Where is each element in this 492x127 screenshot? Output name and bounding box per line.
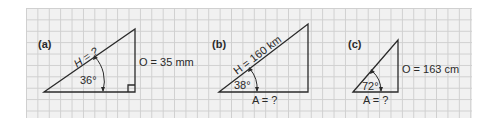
hypotenuse-label-a: H = ? bbox=[71, 44, 100, 69]
panel-c-label: (c) bbox=[348, 38, 362, 50]
panel-b-label: (b) bbox=[212, 38, 226, 50]
angle-label-c: 72° bbox=[362, 80, 379, 92]
trig-triangles-figure: (a) 36° H = ? O = 35 mm (b) 38° H = 160 … bbox=[0, 0, 492, 127]
right-angle-marker-a bbox=[128, 85, 135, 92]
opposite-label-a: O = 35 mm bbox=[139, 56, 194, 68]
panel-a: (a) 36° H = ? O = 35 mm bbox=[38, 29, 194, 92]
hypotenuse-label-b: H = 160 km bbox=[231, 33, 283, 77]
triangles-overlay: (a) 36° H = ? O = 35 mm (b) 38° H = 160 … bbox=[0, 0, 492, 127]
arc-arrow-bottom-b bbox=[255, 87, 259, 92]
panel-b: (b) 38° H = 160 km A = ? bbox=[212, 24, 308, 106]
opposite-label-c: O = 163 cm bbox=[402, 63, 459, 75]
triangle-b bbox=[219, 24, 308, 92]
arc-arrow-bottom-c bbox=[379, 87, 383, 92]
angle-label-b: 38° bbox=[234, 79, 251, 91]
panel-c: (c) 72° O = 163 cm A = ? bbox=[348, 38, 459, 106]
angle-label-a: 36° bbox=[80, 74, 97, 86]
arc-arrow-bottom-a bbox=[101, 87, 105, 92]
adjacent-label-c: A = ? bbox=[363, 94, 388, 106]
adjacent-label-b: A = ? bbox=[252, 94, 277, 106]
panel-a-label: (a) bbox=[38, 38, 52, 50]
